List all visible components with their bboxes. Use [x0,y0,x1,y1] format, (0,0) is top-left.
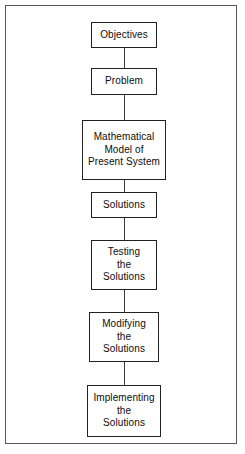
connector-objectives-to-problem [124,48,125,68]
flowchart-node-label: Problem [94,75,154,88]
flowchart-node-label: Objectives [94,29,154,42]
flowchart-node-label: Solutions [94,199,154,212]
flowchart-node-objectives[interactable]: Objectives [91,22,157,48]
flowchart-node-modifying-the-solutions[interactable]: Modifying the Solutions [89,312,159,362]
connector-modifying-to-implementing [124,362,125,385]
flowchart-node-mathematical-model[interactable]: Mathematical Model of Present System [82,120,166,180]
connector-testing-to-modifying [124,290,125,312]
flowchart-node-label: Modifying the Solutions [92,318,156,356]
flowchart-node-label: Mathematical Model of Present System [85,131,163,169]
flowchart-node-label: Implementing the Solutions [90,392,158,430]
flowchart-node-testing-the-solutions[interactable]: Testing the Solutions [91,240,157,290]
connector-solutions-to-testing [124,218,125,240]
flowchart-page: ObjectivesProblemMathematical Model of P… [0,0,245,454]
flowchart-node-label: Testing the Solutions [94,246,154,284]
flowchart-node-implementing-the-solutions[interactable]: Implementing the Solutions [87,385,161,437]
flowchart-node-solutions[interactable]: Solutions [91,192,157,218]
connector-mathematical-model-to-solutions [124,180,125,192]
connector-problem-to-mathematical-model [124,95,125,120]
flowchart-node-problem[interactable]: Problem [91,68,157,95]
